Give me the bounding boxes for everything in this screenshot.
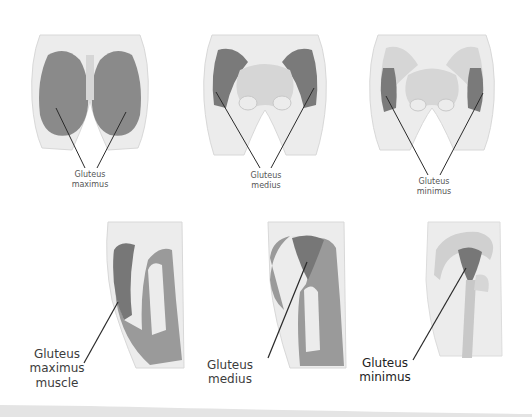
label-line: maximus xyxy=(22,361,92,375)
panel-gluteus-minimus-posterior xyxy=(370,35,495,175)
panel-gluteus-medius-posterior xyxy=(204,35,327,168)
label-line: Gluteus xyxy=(200,358,260,372)
label-gluteus-medius-posterior: Gluteus medius xyxy=(236,171,296,190)
label-gluteus-maximus-lateral: Gluteus maximus muscle xyxy=(22,347,92,390)
label-gluteus-medius-lateral: Gluteus medius xyxy=(200,358,260,387)
label-line: medius xyxy=(236,181,296,191)
label-line: Gluteus xyxy=(404,177,464,187)
label-line: Gluteus xyxy=(236,171,296,181)
page-edge xyxy=(0,405,532,417)
label-gluteus-minimus-posterior: Gluteus minimus xyxy=(404,177,464,196)
label-gluteus-minimus-lateral: Gluteus minimus xyxy=(355,356,415,385)
panel-gluteus-minimus-lateral xyxy=(413,222,502,360)
label-line: minimus xyxy=(355,370,415,384)
label-line: maximus xyxy=(60,180,120,190)
label-line: minimus xyxy=(404,187,464,197)
panel-gluteus-maximus-lateral xyxy=(84,222,184,368)
label-line: muscle xyxy=(22,376,92,390)
label-gluteus-maximus-posterior: Gluteus maximus xyxy=(60,170,120,189)
label-line: Gluteus xyxy=(22,347,92,361)
panel-gluteus-maximus-posterior xyxy=(32,35,149,168)
label-line: Gluteus xyxy=(355,356,415,370)
panel-gluteus-medius-lateral xyxy=(268,222,346,368)
label-line: medius xyxy=(200,372,260,386)
label-line: Gluteus xyxy=(60,170,120,180)
